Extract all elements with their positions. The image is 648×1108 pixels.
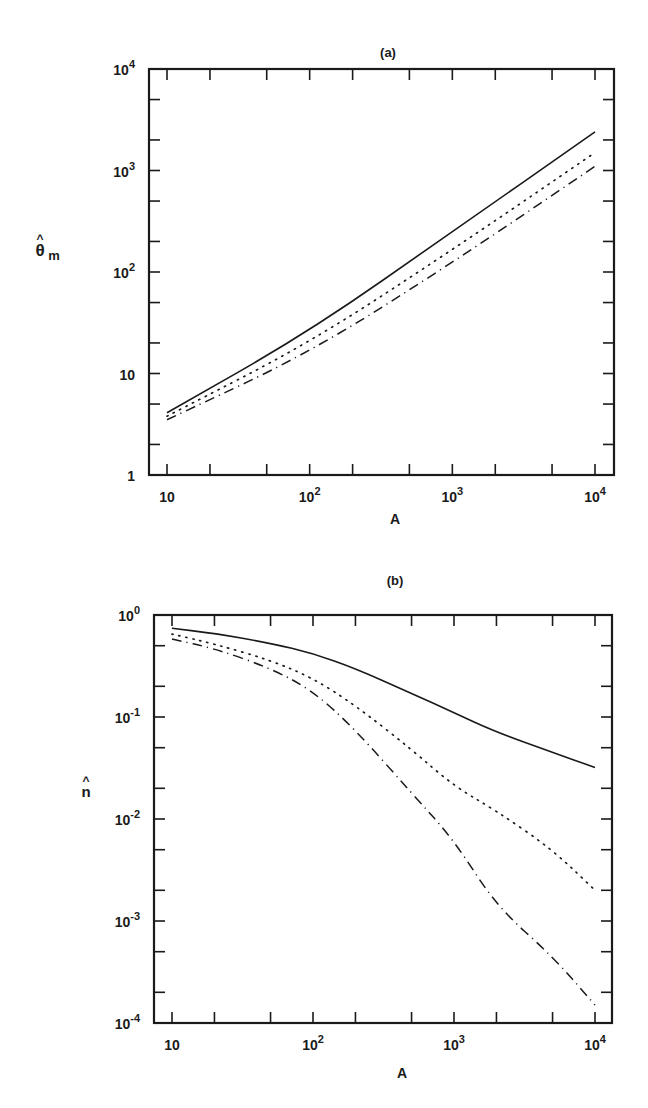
curve-dotted [172,634,595,890]
panel-b-ticks [154,615,612,1023]
x-tick-label: 103 [441,485,463,505]
curve-solid [172,628,595,767]
y-tick-label: 10-4 [115,1012,141,1032]
panel-b-ylabel: n ^ [81,774,90,800]
y-tick-label: 100 [118,604,140,624]
panel-a-frame [149,69,614,475]
y-tick-label: 10-2 [115,808,140,828]
panel-b-frame [154,615,612,1023]
ylabel-sub-m: m [48,248,60,263]
curve-dash-dot [167,166,595,419]
x-tick-label: 10 [164,1037,180,1053]
panel-a-ticks [149,69,614,475]
panel-a-tick-labels: 10102103104110102103104 [113,58,606,505]
x-tick-label: 10 [159,489,175,505]
y-tick-label: 102 [113,261,135,281]
panel-a-ylabel: θ ^ m [35,232,59,263]
panel-a-title: (a) [380,45,396,60]
x-tick-label: 102 [302,1033,324,1053]
x-tick-label: 103 [443,1033,465,1053]
figure: (a) 10102103104110102103104 A θ ^ m (b) … [0,0,648,1108]
panel-b-xlabel: A [397,1065,407,1081]
y-tick-label: 103 [113,160,135,180]
y-tick-label: 1 [127,468,135,484]
y-tick-label: 10 [119,367,135,383]
x-tick-label: 104 [584,485,607,505]
curve-solid [167,132,595,413]
ylabel-hat: ^ [82,774,89,788]
y-tick-label: 10-1 [115,706,140,726]
y-tick-label: 104 [113,58,136,78]
x-tick-label: 102 [299,485,321,505]
panel-a-curves [167,132,595,420]
panel-b: (b) 1010210310410-410-310-210-1100 A n ^ [81,573,612,1081]
curve-dash-dot [172,639,595,1005]
ylabel-hat: ^ [36,232,43,246]
panel-b-title: (b) [387,573,404,588]
panel-b-curves [172,628,595,1005]
x-tick-label: 104 [584,1033,607,1053]
y-tick-label: 10-3 [115,910,140,930]
panel-a-xlabel: A [390,511,400,527]
panel-a: (a) 10102103104110102103104 A θ ^ m [35,45,614,527]
